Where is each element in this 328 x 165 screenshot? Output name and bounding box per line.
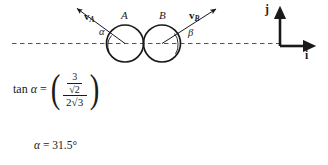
velocity-a-subscript: A [90, 15, 95, 24]
basis-vector-i-label: i [305, 50, 308, 62]
tangent-equation: tan α = ( 3 √2 2√3 ) [13, 70, 101, 108]
result-variable: α [34, 139, 40, 151]
angle-beta-label: β [188, 28, 193, 39]
physics-diagram-screenshot: vA vB A B α β j i tan α = ( 3 √2 2√3 ) [0, 0, 328, 165]
inner-denominator: √2 [67, 84, 82, 96]
numerator-inner-fraction: 3 √2 [67, 71, 82, 95]
fraction-denominator: 2√3 [63, 96, 87, 108]
result-equals: = [43, 139, 50, 151]
fraction-numerator: 3 √2 [64, 70, 85, 95]
velocity-vector-a-label: vA [84, 11, 95, 24]
circle-b-label: B [159, 10, 166, 21]
right-paren: ) [90, 73, 100, 106]
angle-alpha-label: α [99, 27, 105, 38]
circle-a-label: A [121, 10, 128, 21]
basis-vector-j-label: j [265, 4, 269, 16]
equation-left-side: tan α = [13, 82, 47, 97]
result-line: α = 31.5° [34, 139, 77, 151]
main-fraction: 3 √2 2√3 [63, 70, 87, 108]
radicand-num: 2 [74, 83, 80, 95]
left-paren: ( [51, 73, 61, 106]
radicand-den: 3 [77, 95, 84, 108]
velocity-b-subscript: B [195, 14, 200, 23]
inner-numerator: 3 [70, 71, 79, 83]
equation-equals: = [40, 82, 47, 96]
result-value: 31.5 [52, 139, 72, 151]
result-unit: ° [72, 139, 77, 151]
equation-alpha: α [31, 82, 37, 96]
velocity-vector-b-label: vB [189, 10, 200, 23]
tan-function: tan [13, 82, 28, 96]
